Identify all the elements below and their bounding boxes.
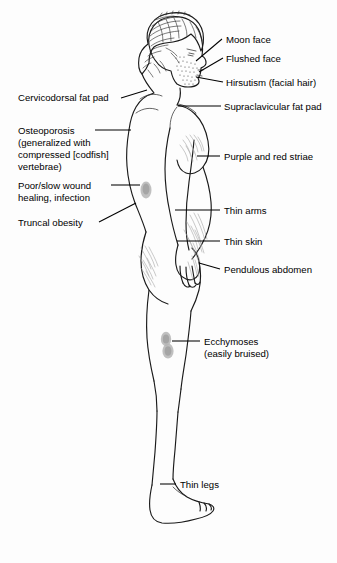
- leader-moon-face: [196, 39, 222, 61]
- leader-pendulous-abdomen: [199, 263, 220, 269]
- cushing-syndrome-diagram: Moon face Flushed face Hirsutism (facial…: [0, 0, 337, 563]
- striae-breast: [180, 135, 204, 161]
- label-cervicodorsal-fat-pad: Cervicodorsal fat pad: [18, 92, 109, 103]
- ecchymoses-blotch: [161, 332, 174, 359]
- label-thin-legs: Thin legs: [180, 479, 219, 490]
- label-truncal-obesity: Truncal obesity: [18, 217, 83, 228]
- label-ecchymoses-line2: (easily bruised): [204, 348, 269, 359]
- thigh-front-outline: [181, 311, 191, 389]
- wound-blotch: [141, 182, 152, 199]
- thigh-back-outline: [147, 290, 154, 381]
- breast-outline: [177, 114, 209, 174]
- back-outline: [127, 130, 146, 232]
- label-hirsutism: Hirsutism (facial hair): [226, 77, 316, 88]
- arm-outline: [165, 128, 178, 245]
- left-label-group: Cervicodorsal fat pad Osteoporosis (gene…: [18, 92, 109, 228]
- label-osteoporosis-line1: Osteoporosis: [18, 125, 75, 136]
- neck-and-hump-outline: [129, 74, 154, 130]
- leader-flushed-face: [199, 58, 223, 72]
- leader-hirsutism: [196, 77, 223, 82]
- label-poor-slow-wound-healing-line1: Poor/slow wound: [18, 180, 91, 191]
- label-thin-arms: Thin arms: [224, 205, 267, 216]
- hirsutism-stipple: [175, 56, 197, 84]
- label-pendulous-abdomen: Pendulous abdomen: [224, 264, 312, 275]
- calf-back-outline: [152, 411, 157, 485]
- label-moon-face: Moon face: [226, 34, 271, 45]
- label-poor-slow-wound-healing-line2: healing, infection: [18, 192, 90, 203]
- knee-front-outline: [178, 389, 181, 412]
- hump-crease: [136, 108, 158, 113]
- label-supraclavicular-fat-pad: Supraclavicular fat pad: [224, 101, 322, 112]
- label-purple-and-red-striae: Purple and red striae: [224, 151, 313, 162]
- right-label-group: Moon face Flushed face Hirsutism (facial…: [180, 34, 322, 490]
- label-ecchymoses-line1: Ecchymoses: [204, 336, 259, 347]
- body-figure: [127, 11, 214, 523]
- label-flushed-face: Flushed face: [226, 53, 281, 64]
- knee-back-outline: [154, 381, 157, 411]
- chest-crease: [170, 107, 177, 128]
- label-osteoporosis-line4: vertebrae): [18, 161, 62, 172]
- label-osteoporosis-line3: compressed [codfish]: [18, 149, 109, 160]
- label-thin-skin: Thin skin: [224, 236, 262, 247]
- leader-lines: [95, 39, 223, 484]
- calf-front-outline: [173, 412, 178, 479]
- striae-abdomen: [184, 213, 207, 281]
- label-osteoporosis-line2: (generalized with: [18, 137, 91, 148]
- buttock-outline: [141, 232, 168, 304]
- leader-truncal-obesity: [99, 203, 136, 222]
